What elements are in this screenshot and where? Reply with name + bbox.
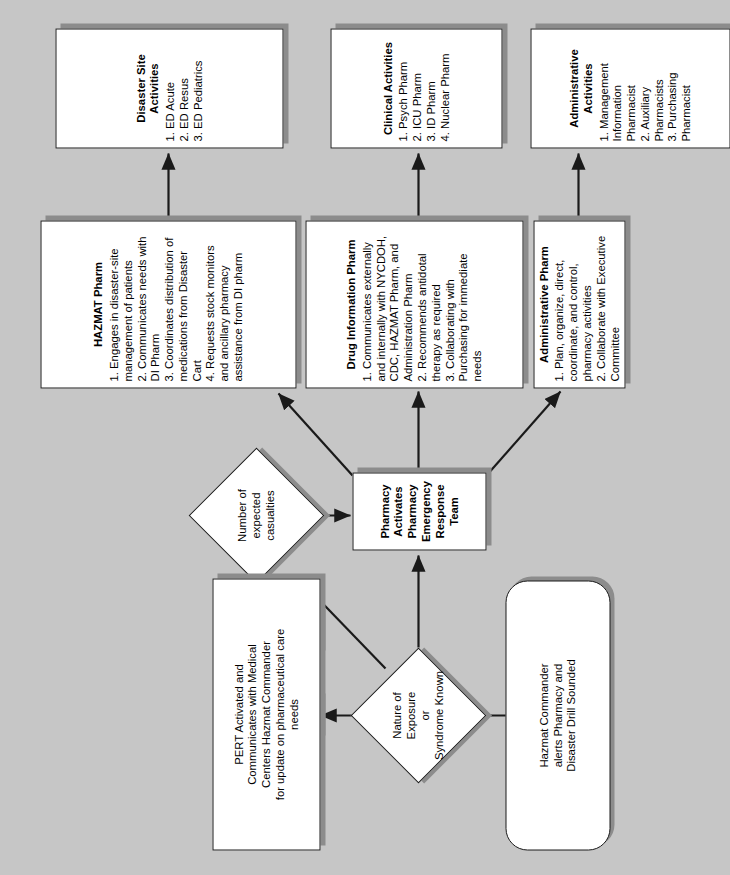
decision-exposure-line-1: Nature of Exposure xyxy=(390,667,418,763)
decision-casualties-line-1: Number of xyxy=(235,467,249,563)
node-pert-line-4: for update on pharmaceutical care xyxy=(273,584,287,844)
node-start[interactable]: Hazmat Commander alerts Pharmacy and Dis… xyxy=(505,580,610,850)
node-administrative-activities-item-2: 2. Auxiliary Pharmacists xyxy=(638,35,666,141)
node-administrative-activities-title: Administrative Activities xyxy=(567,29,595,147)
node-hazmat-pharm[interactable]: HAZMAT Pharm 1. Engages in disaster-site… xyxy=(40,220,296,388)
node-administrative-activities[interactable]: Administrative Activities 1. Management … xyxy=(530,28,730,148)
node-disaster-site-activities-item-3: 3. ED Pediatrics xyxy=(191,35,205,141)
node-pert-line-5: needs xyxy=(287,584,301,844)
node-administrative-activities-item-3: 3. Purchasing Pharmacist xyxy=(665,35,693,141)
node-admin-pharm[interactable]: Administrative Pharm 1. Plan, organize, … xyxy=(533,220,625,388)
node-disaster-site-activities-item-1: 1. ED Acute xyxy=(163,35,177,141)
node-hazmat-pharm-title: HAZMAT Pharm xyxy=(91,221,105,387)
node-clinical-activities-item-3: 3. ID Pharm xyxy=(424,35,438,141)
node-pert-team-line-2: Pharmacy Emergency Response xyxy=(405,478,446,544)
node-pert-line-2: Communicates with Medical xyxy=(245,584,259,844)
node-drug-info-pharm-item-1: 1. Communicates externally and internall… xyxy=(360,227,415,381)
decision-exposure-line-2: or xyxy=(418,667,432,763)
node-pert-team[interactable]: Pharmacy Activates Pharmacy Emergency Re… xyxy=(352,472,486,550)
node-hazmat-pharm-item-4: 4. Requests stock monitors and ancillary… xyxy=(203,227,244,381)
node-clinical-activities-item-2: 2. ICU Pharm xyxy=(410,35,424,141)
node-clinical-activities-item-1: 1. Psych Pharm xyxy=(396,35,410,141)
node-drug-info-pharm-title: Drug Information Pharm xyxy=(344,221,358,387)
node-disaster-site-activities-item-2: 2. ED Resus xyxy=(177,35,191,141)
node-start-line-3: Disaster Drill Sounded xyxy=(564,586,578,844)
node-disaster-site-activities[interactable]: Disaster Site Activities 1. ED Acute 2. … xyxy=(55,28,283,148)
node-hazmat-pharm-item-1: 1. Engages in disaster-site management o… xyxy=(107,227,135,381)
node-hazmat-pharm-item-3: 3. Coordinates distribution of medicatio… xyxy=(162,227,203,381)
node-drug-info-pharm-item-2: 2. Recommends antidotal therapy as requi… xyxy=(415,227,443,381)
node-pert-line-1: PERT Activated and xyxy=(232,584,246,844)
node-clinical-activities[interactable]: Clinical Activities 1. Psych Pharm 2. IC… xyxy=(330,28,502,148)
node-pert-team-line-1: Pharmacy Activates xyxy=(378,478,406,544)
node-start-line-1: Hazmat Commander xyxy=(537,586,551,844)
node-clinical-activities-title: Clinical Activities xyxy=(381,29,395,147)
node-decision-exposure[interactable]: Nature of Exposure or Syndrome Known xyxy=(370,667,466,763)
decision-exposure-line-3: Syndrome Known xyxy=(432,667,446,763)
edge-pert-team-to-admin xyxy=(486,391,560,475)
node-drug-info-pharm-item-3: 3. Collaborating with Purchasing for imm… xyxy=(443,227,484,381)
node-pert[interactable]: PERT Activated and Communicates with Med… xyxy=(212,578,320,850)
edge-pert-team-to-hazmat xyxy=(278,393,352,475)
node-admin-pharm-item-1: 1. Plan, organize, direct, coordinate, a… xyxy=(552,227,593,381)
decision-casualties-line-2: expected casualties xyxy=(249,467,277,563)
node-admin-pharm-title: Administrative Pharm xyxy=(537,221,551,387)
node-decision-casualties[interactable]: Number of expected casualties xyxy=(208,467,304,563)
node-disaster-site-activities-title: Disaster Site Activities xyxy=(134,29,162,147)
node-start-line-2: alerts Pharmacy and xyxy=(551,586,565,844)
node-admin-pharm-item-2: 2. Collaborate with Executive Committee xyxy=(594,227,622,381)
node-pert-line-3: Centers Hazmat Commander xyxy=(259,584,273,844)
node-administrative-activities-item-1: 1. Management Information Pharmacist xyxy=(597,35,638,141)
node-hazmat-pharm-item-2: 2. Communicates needs with DI Pharm xyxy=(135,227,163,381)
node-drug-info-pharm[interactable]: Drug Information Pharm 1. Communicates e… xyxy=(305,220,523,388)
node-pert-team-line-3: Team xyxy=(447,478,461,544)
node-clinical-activities-item-4: 4. Nuclear Pharm xyxy=(438,35,452,141)
